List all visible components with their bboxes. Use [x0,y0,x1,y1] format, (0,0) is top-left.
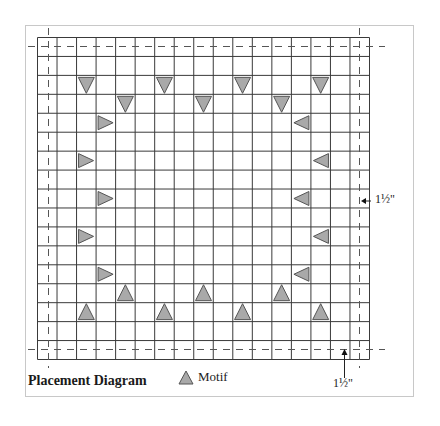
motif-triangle-left [294,267,309,281]
legend: Motif [178,369,228,385]
motif-triangle-down [78,77,94,93]
triangle-motif-icon [178,370,194,385]
motif-triangle-down [235,77,251,93]
diagram-title: Placement Diagram [28,373,147,389]
motif-triangle-up [156,304,172,320]
motif-triangle-down [117,96,133,112]
motif-triangle-up [274,285,290,301]
legend-label: Motif [198,369,228,385]
motif-triangle-left [294,116,309,130]
motif-triangle-down [196,96,212,112]
placement-grid [0,0,440,426]
motif-triangle-up [78,304,94,320]
motif-triangle-right [98,192,113,206]
motif-triangle-right [79,154,94,168]
motif-triangle-down [156,77,172,93]
motif-triangle-down [313,77,329,93]
motif-triangle-down [274,96,290,112]
motif-triangle-up [196,285,212,301]
dimension-arrows [342,198,372,378]
motif-triangle-up [117,285,133,301]
motif-triangle-left [313,229,328,243]
motif-triangle-right [98,116,113,130]
motif-triangle-up [235,304,251,320]
motif-triangle-left [313,154,328,168]
dimension-label-right: 1½" [375,192,395,207]
motif-triangle-right [98,267,113,281]
motif-triangle-up [313,304,329,320]
motif-triangle-right [79,229,94,243]
motif-triangle-left [294,192,309,206]
dimension-label-bottom: 1½" [333,376,353,391]
